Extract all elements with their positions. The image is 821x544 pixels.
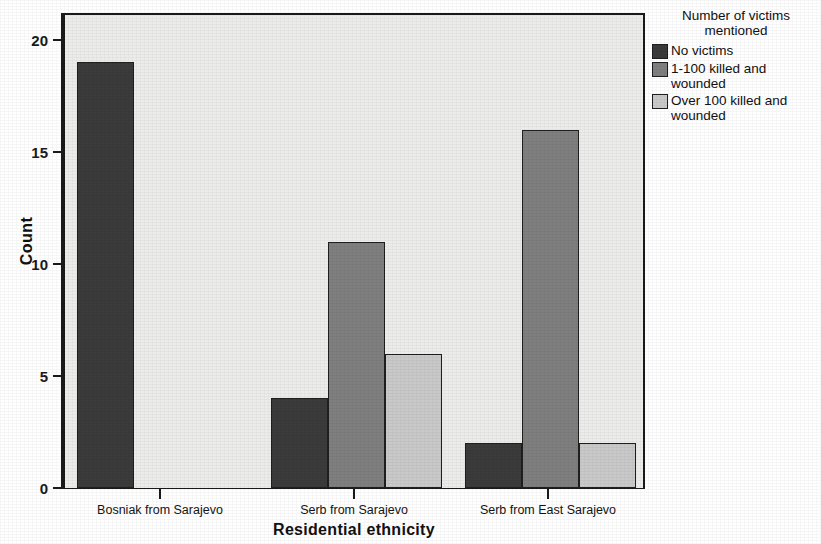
bar — [522, 130, 579, 488]
legend-title-line-1: Number of victims — [654, 8, 818, 23]
bar — [328, 242, 385, 488]
legend-item: 1-100 killed andwounded — [652, 62, 820, 91]
legend-item-label: Over 100 killed andwounded — [671, 94, 787, 123]
bar-chart-figure: Count 05101520 Bosniak from SarajevoSerb… — [0, 0, 821, 544]
plot-area — [63, 13, 645, 488]
legend-entries: No victims1-100 killed andwoundedOver 10… — [652, 44, 820, 123]
y-axis-tick — [53, 263, 62, 265]
bar — [77, 62, 134, 488]
x-axis-category-label: Serb from Sarajevo — [257, 503, 451, 517]
x-axis-title: Residential ethnicity — [63, 521, 645, 539]
y-axis-tick-label: 5 — [40, 369, 48, 384]
legend-item-label: No victims — [671, 44, 733, 59]
x-axis-tick — [547, 489, 549, 499]
y-axis-tick — [53, 487, 62, 489]
legend: Number of victims mentioned No victims1-… — [652, 8, 820, 126]
x-axis-category-label: Serb from East Sarajevo — [451, 503, 645, 517]
bars-container — [65, 15, 643, 488]
legend-title: Number of victims mentioned — [652, 8, 820, 44]
y-axis-tick — [53, 151, 62, 153]
legend-swatch — [652, 62, 668, 77]
legend-swatch — [652, 44, 668, 59]
y-axis-tick-label: 10 — [31, 257, 48, 272]
legend-item-label: 1-100 killed andwounded — [671, 62, 766, 91]
legend-item: Over 100 killed andwounded — [652, 94, 820, 123]
y-axis-tick-label: 0 — [40, 481, 48, 496]
bar — [385, 354, 442, 488]
bar — [271, 398, 328, 488]
y-axis-tick-label: 20 — [31, 33, 48, 48]
bar — [465, 443, 522, 488]
y-axis-tick-label: 15 — [31, 145, 48, 160]
bar — [579, 443, 636, 488]
x-axis-tick — [159, 489, 161, 499]
x-axis-tick — [353, 489, 355, 499]
y-axis-tick — [53, 39, 62, 41]
legend-swatch — [652, 94, 668, 109]
legend-item: No victims — [652, 44, 820, 59]
y-axis-tick — [53, 375, 62, 377]
legend-title-line-2: mentioned — [654, 23, 818, 38]
x-axis-category-label: Bosniak from Sarajevo — [63, 503, 257, 517]
